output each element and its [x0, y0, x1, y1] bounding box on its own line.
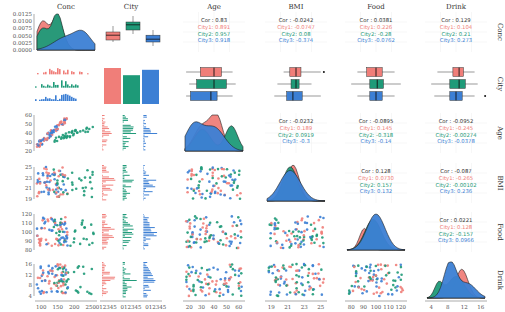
y-tick: 25 [25, 164, 32, 170]
column-label: City [124, 3, 138, 11]
cor-overall: Cor : 0.0381 [360, 17, 393, 23]
panel-age-drink: Cor : -0.0952City1: -0.245City2: -0.0027… [425, 113, 487, 153]
y-tick: 40 [25, 130, 32, 136]
panel-drink-bmi [267, 263, 325, 298]
x-tick: 50 [223, 304, 230, 310]
panel-drink-city [102, 262, 155, 297]
panel-food-age [185, 215, 243, 249]
y-tick: 8 [29, 282, 33, 288]
y-tick: 100 [22, 229, 33, 235]
y-tick: 0.0125 [13, 11, 33, 17]
axes: 0.00000.00250.00500.00750.01000.01252030… [13, 11, 487, 310]
panel-age-bmi: Cor : -0.0232City1: 0.189City2: 0.0919Ci… [265, 113, 327, 153]
y-tick: 110 [22, 220, 33, 226]
x-tick: 25 [317, 304, 324, 310]
y-tick: 0.0075 [13, 25, 33, 31]
x-tick: 100 [371, 304, 382, 310]
y-tick: 20 [25, 148, 32, 154]
column-label: BMI [288, 3, 303, 11]
panel-age-city [102, 115, 157, 150]
panel-conc-city [106, 16, 160, 46]
pairs-matrix-svg: ConcConcCityCityAgeAgeBMIBMIFoodFoodDrin… [0, 0, 505, 312]
panel-bmi-drink: Cor : -0.087City1: -0.265City2: -0.00102… [425, 163, 487, 203]
y-tick: 0.0100 [13, 18, 33, 24]
cor-city3: City3: -0.0378 [437, 138, 475, 145]
x-tick: 120 [396, 304, 407, 310]
y-tick: 80 [25, 247, 32, 253]
y-tick: 21 [25, 185, 32, 191]
panel-city-food [351, 68, 401, 101]
cor-overall: Cor : 0.0221 [440, 217, 473, 223]
cor-overall: Cor : -0.087 [440, 168, 471, 174]
panel-food-food [347, 214, 405, 250]
cor-city3: City3: 0.918 [198, 37, 231, 44]
panel-age-conc [36, 117, 94, 148]
y-tick: 16 [25, 261, 32, 267]
panel-food-bmi [268, 215, 324, 249]
panel-conc-bmi: Cor : -0.0242City1: -0.0747City2: 0.08Ci… [265, 12, 327, 52]
panel-conc-drink: Cor : 0.129City1: 0.104City2: 0.21City3:… [425, 12, 487, 52]
x-tick: 19 [268, 304, 275, 310]
y-tick: 4 [29, 293, 33, 299]
row-label: BMI [496, 175, 504, 190]
x-tick: 16 [477, 304, 484, 310]
cor-overall: Cor : -0.0242 [279, 17, 314, 23]
x-tick: 90 [360, 304, 367, 310]
y-tick: 120 [22, 211, 33, 217]
panel-city-conc [35, 68, 89, 101]
panel-food-city [102, 214, 157, 249]
y-tick: 0.0025 [13, 40, 33, 46]
panel-age-age [185, 115, 243, 151]
x-tick: 012345 [96, 304, 117, 310]
cor-city3: City3: 0.273 [440, 37, 472, 44]
y-tick: 23 [25, 175, 32, 181]
cor-overall: Cor : 0.83 [201, 17, 227, 23]
row-label: Age [496, 125, 504, 140]
x-tick: 100 [36, 304, 47, 310]
y-tick: 90 [25, 238, 32, 244]
panel-city-drink [431, 68, 486, 101]
x-tick: 8 [446, 304, 450, 310]
y-tick: 60 [25, 112, 32, 118]
panel-drink-food [348, 263, 404, 297]
cor-city3: City3: -0.3 [282, 138, 310, 145]
cor-city3: City3: 0.132 [360, 188, 392, 195]
x-tick: 21 [284, 304, 291, 310]
y-tick: 12 [25, 272, 32, 278]
x-tick: 60 [235, 304, 242, 310]
panel-bmi-food: Cor : 0.128City1: 0.0730City2: 0.157City… [345, 163, 407, 203]
pairs-plot: ConcConcCityCityAgeAgeBMIBMIFoodFoodDrin… [0, 0, 505, 312]
column-label: Drink [446, 3, 467, 11]
panel-age-food: Cor : -0.0895City1: 0.145City2: -0.318Ci… [345, 113, 407, 153]
cor-overall: Cor : -0.0952 [439, 118, 474, 124]
x-tick: 4 [429, 304, 433, 310]
panel-city-age [186, 68, 236, 101]
panel-drink-conc [36, 263, 94, 295]
panel-bmi-city [102, 165, 156, 200]
column-label: Conc [57, 3, 75, 11]
cor-city3: City3: 0.236 [440, 188, 473, 195]
panel-conc-food: Cor : 0.0381City1: 0.226City2: -0.28City… [345, 12, 407, 52]
column-label: Food [367, 3, 385, 11]
cor-overall: Cor : -0.0232 [279, 118, 314, 124]
cor-city3: City3: 0.0966 [438, 237, 474, 244]
y-tick: 0.0000 [13, 47, 33, 53]
cor-city3: City3: -0.0762 [357, 37, 395, 44]
panel-drink-age [185, 263, 243, 297]
x-tick: 12 [461, 304, 468, 310]
panel-bmi-age [186, 166, 242, 200]
x-tick: 20 [186, 304, 193, 310]
row-label: Conc [496, 23, 504, 41]
cor-overall: Cor : 0.128 [361, 168, 391, 174]
x-tick: 200 [69, 304, 80, 310]
panel-food-drink: Cor : 0.0221City1: 0.128City2: -0.157Cit… [425, 212, 487, 252]
panel-conc-conc [37, 14, 95, 50]
y-tick: 0.0050 [13, 33, 33, 39]
row-label: Food [496, 223, 504, 241]
panel-bmi-bmi [267, 165, 325, 201]
y-tick: 19 [25, 196, 32, 202]
x-tick: 23 [301, 304, 308, 310]
cor-overall: Cor : -0.0895 [359, 118, 394, 124]
x-tick: 40 [211, 304, 218, 310]
cor-overall: Cor : 0.129 [441, 17, 470, 23]
